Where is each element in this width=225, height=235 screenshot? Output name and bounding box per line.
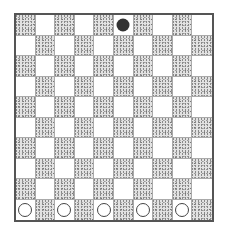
board-square-r0-c4[interactable] xyxy=(94,15,114,36)
board-square-r0-c7[interactable] xyxy=(153,15,173,36)
board-square-r6-c6[interactable] xyxy=(134,138,154,159)
board-square-r8-c4[interactable] xyxy=(94,179,114,200)
board-square-r2-c5[interactable] xyxy=(114,56,134,77)
board-square-r3-c4[interactable] xyxy=(94,77,114,98)
board-square-r8-c1[interactable] xyxy=(36,179,56,200)
board-square-r8-c8[interactable] xyxy=(173,179,193,200)
board-square-r7-c3[interactable] xyxy=(75,159,95,180)
white-piece-icon[interactable] xyxy=(18,203,32,217)
board-square-r4-c6[interactable] xyxy=(134,97,154,118)
board-square-r3-c6[interactable] xyxy=(134,77,154,98)
board-square-r4-c5[interactable] xyxy=(114,97,134,118)
board-square-r9-c8[interactable] xyxy=(173,200,193,221)
board-square-r9-c5[interactable] xyxy=(114,200,134,221)
board-square-r6-c8[interactable] xyxy=(173,138,193,159)
board-square-r8-c2[interactable] xyxy=(55,179,75,200)
board-square-r0-c3[interactable] xyxy=(75,15,95,36)
board-square-r4-c2[interactable] xyxy=(55,97,75,118)
board-square-r0-c1[interactable] xyxy=(36,15,56,36)
black-piece-icon[interactable] xyxy=(117,18,130,31)
board-square-r0-c5[interactable] xyxy=(114,15,134,36)
board-square-r3-c5[interactable] xyxy=(114,77,134,98)
board-square-r8-c5[interactable] xyxy=(114,179,134,200)
board-square-r2-c6[interactable] xyxy=(134,56,154,77)
board-square-r7-c8[interactable] xyxy=(173,159,193,180)
board-square-r9-c2[interactable] xyxy=(55,200,75,221)
board-square-r8-c9[interactable] xyxy=(192,179,212,200)
board-square-r6-c7[interactable] xyxy=(153,138,173,159)
board-square-r2-c9[interactable] xyxy=(192,56,212,77)
board-square-r5-c3[interactable] xyxy=(75,118,95,139)
board-square-r1-c3[interactable] xyxy=(75,36,95,57)
board-square-r2-c2[interactable] xyxy=(55,56,75,77)
board-square-r3-c0[interactable] xyxy=(16,77,36,98)
board-square-r6-c1[interactable] xyxy=(36,138,56,159)
board-square-r9-c4[interactable] xyxy=(94,200,114,221)
board-square-r8-c3[interactable] xyxy=(75,179,95,200)
board-square-r0-c2[interactable] xyxy=(55,15,75,36)
board-square-r2-c8[interactable] xyxy=(173,56,193,77)
white-piece-icon[interactable] xyxy=(175,203,189,217)
board-square-r7-c7[interactable] xyxy=(153,159,173,180)
board-square-r1-c9[interactable] xyxy=(192,36,212,57)
board-square-r9-c0[interactable] xyxy=(16,200,36,221)
board-square-r1-c7[interactable] xyxy=(153,36,173,57)
board-square-r1-c8[interactable] xyxy=(173,36,193,57)
board-square-r5-c0[interactable] xyxy=(16,118,36,139)
board-square-r9-c1[interactable] xyxy=(36,200,56,221)
board-square-r1-c1[interactable] xyxy=(36,36,56,57)
board-square-r1-c2[interactable] xyxy=(55,36,75,57)
board-square-r6-c3[interactable] xyxy=(75,138,95,159)
board-square-r6-c5[interactable] xyxy=(114,138,134,159)
board-square-r7-c6[interactable] xyxy=(134,159,154,180)
board-square-r0-c6[interactable] xyxy=(134,15,154,36)
board-square-r8-c0[interactable] xyxy=(16,179,36,200)
white-piece-icon[interactable] xyxy=(97,203,111,217)
board-square-r7-c2[interactable] xyxy=(55,159,75,180)
board-square-r5-c7[interactable] xyxy=(153,118,173,139)
board-square-r3-c2[interactable] xyxy=(55,77,75,98)
board-square-r1-c6[interactable] xyxy=(134,36,154,57)
board-square-r4-c9[interactable] xyxy=(192,97,212,118)
board-square-r4-c4[interactable] xyxy=(94,97,114,118)
board-square-r0-c8[interactable] xyxy=(173,15,193,36)
board-square-r3-c1[interactable] xyxy=(36,77,56,98)
board-square-r7-c1[interactable] xyxy=(36,159,56,180)
board-square-r9-c3[interactable] xyxy=(75,200,95,221)
board-square-r5-c8[interactable] xyxy=(173,118,193,139)
board-square-r5-c4[interactable] xyxy=(94,118,114,139)
board-square-r4-c8[interactable] xyxy=(173,97,193,118)
board-square-r7-c0[interactable] xyxy=(16,159,36,180)
board-square-r7-c9[interactable] xyxy=(192,159,212,180)
board-square-r2-c0[interactable] xyxy=(16,56,36,77)
board-square-r7-c4[interactable] xyxy=(94,159,114,180)
board-square-r4-c0[interactable] xyxy=(16,97,36,118)
board-square-r9-c6[interactable] xyxy=(134,200,154,221)
board-square-r2-c3[interactable] xyxy=(75,56,95,77)
board-square-r4-c7[interactable] xyxy=(153,97,173,118)
board-square-r1-c5[interactable] xyxy=(114,36,134,57)
board-square-r8-c6[interactable] xyxy=(134,179,154,200)
board-square-r4-c1[interactable] xyxy=(36,97,56,118)
board-square-r2-c7[interactable] xyxy=(153,56,173,77)
board-square-r4-c3[interactable] xyxy=(75,97,95,118)
board-square-r9-c9[interactable] xyxy=(192,200,212,221)
board-square-r5-c1[interactable] xyxy=(36,118,56,139)
board-square-r3-c3[interactable] xyxy=(75,77,95,98)
board-square-r2-c4[interactable] xyxy=(94,56,114,77)
board-square-r0-c0[interactable] xyxy=(16,15,36,36)
board-square-r1-c0[interactable] xyxy=(16,36,36,57)
board-square-r5-c5[interactable] xyxy=(114,118,134,139)
board-square-r5-c9[interactable] xyxy=(192,118,212,139)
board-square-r1-c4[interactable] xyxy=(94,36,114,57)
white-piece-icon[interactable] xyxy=(57,203,71,217)
board-square-r5-c2[interactable] xyxy=(55,118,75,139)
board-square-r9-c7[interactable] xyxy=(153,200,173,221)
board-square-r0-c9[interactable] xyxy=(192,15,212,36)
board-square-r3-c8[interactable] xyxy=(173,77,193,98)
board-square-r7-c5[interactable] xyxy=(114,159,134,180)
board-square-r6-c0[interactable] xyxy=(16,138,36,159)
white-piece-icon[interactable] xyxy=(136,203,150,217)
board-square-r5-c6[interactable] xyxy=(134,118,154,139)
board-square-r6-c9[interactable] xyxy=(192,138,212,159)
